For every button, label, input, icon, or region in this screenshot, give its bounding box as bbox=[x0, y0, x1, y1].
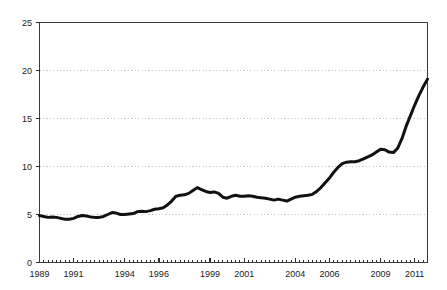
x-tick-label: 1991 bbox=[64, 269, 84, 279]
x-tick-label: 2009 bbox=[371, 269, 391, 279]
y-tick-label: 5 bbox=[8, 210, 32, 220]
y-tick-label: 25 bbox=[8, 18, 32, 28]
x-tick-label: 1999 bbox=[200, 269, 220, 279]
x-tick-label: 2006 bbox=[319, 269, 339, 279]
line-chart: 0510152025 19891991199419961999200120042… bbox=[0, 0, 447, 290]
y-tick-label: 20 bbox=[8, 66, 32, 76]
x-tick-label: 2011 bbox=[405, 269, 424, 279]
x-tick-label: 1989 bbox=[29, 269, 49, 279]
x-tick-label: 2004 bbox=[285, 269, 305, 279]
gridlines bbox=[40, 71, 428, 215]
axis-lines bbox=[40, 23, 428, 263]
chart-plot-area bbox=[0, 0, 447, 290]
data-line-series-1 bbox=[40, 79, 428, 219]
y-tick-label: 10 bbox=[8, 162, 32, 172]
y-tick-label: 0 bbox=[8, 258, 32, 268]
axis-major-ticks bbox=[36, 23, 415, 263]
x-tick-label: 1996 bbox=[149, 269, 169, 279]
x-tick-label: 2001 bbox=[234, 269, 254, 279]
y-tick-label: 15 bbox=[8, 114, 32, 124]
x-tick-label: 1994 bbox=[115, 269, 135, 279]
